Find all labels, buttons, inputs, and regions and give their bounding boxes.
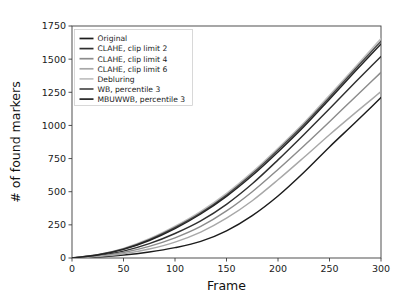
y-tick-label: 1000 xyxy=(42,120,66,131)
legend-label-1: CLAHE, clip limit 2 xyxy=(98,44,168,53)
y-tick-label: 1250 xyxy=(42,87,66,98)
y-tick-label: 1750 xyxy=(42,20,66,31)
chart-figure: 02505007501000125015001750 0501001502002… xyxy=(0,0,398,307)
legend-label-4: Debluring xyxy=(98,75,135,84)
legend-label-5: WB, percentile 3 xyxy=(98,85,161,94)
x-tick-label: 0 xyxy=(69,263,75,274)
y-tick-label: 0 xyxy=(60,252,66,263)
y-tick-label: 500 xyxy=(48,186,66,197)
legend-label-6: MBUWWB, percentile 3 xyxy=(98,95,186,104)
x-tick-label: 150 xyxy=(217,263,235,274)
line-chart-canvas: 02505007501000125015001750 0501001502002… xyxy=(0,0,398,307)
x-tick-label: 200 xyxy=(269,263,287,274)
legend-label-3: CLAHE, clip limit 6 xyxy=(98,65,168,74)
y-tick-label: 250 xyxy=(48,219,66,230)
y-axis-title: # of found markers xyxy=(8,81,23,202)
x-tick-label: 50 xyxy=(117,263,129,274)
x-axis-title: Frame xyxy=(207,278,246,293)
legend-label-0: Original xyxy=(98,34,128,43)
x-tick-label: 300 xyxy=(372,263,390,274)
x-tick-label: 250 xyxy=(320,263,338,274)
x-tick-label: 100 xyxy=(166,263,184,274)
legend-label-2: CLAHE, clip limit 4 xyxy=(98,55,168,64)
chart-legend: OriginalCLAHE, clip limit 2CLAHE, clip l… xyxy=(75,30,193,106)
y-tick-label: 1500 xyxy=(42,54,66,65)
y-tick-label: 750 xyxy=(48,153,66,164)
